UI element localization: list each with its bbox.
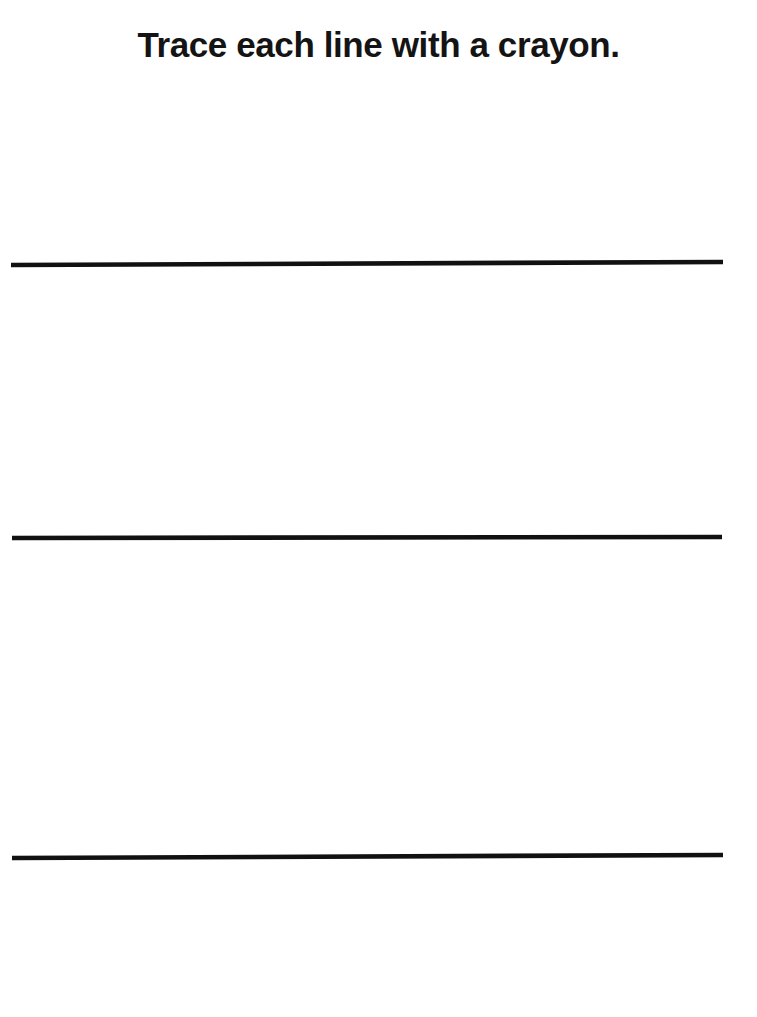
trace-line-stroke-1 <box>11 262 723 265</box>
trace-line-3 <box>0 838 757 878</box>
trace-line-1 <box>0 244 757 284</box>
worksheet-page: Trace each line with a crayon. <box>0 0 757 1017</box>
trace-lines-group <box>0 0 757 1017</box>
trace-line-2 <box>0 518 757 558</box>
trace-line-stroke-3 <box>12 855 723 858</box>
trace-line-row-1 <box>0 244 757 284</box>
trace-line-row-2 <box>0 518 757 558</box>
trace-line-stroke-2 <box>12 537 722 538</box>
trace-line-row-3 <box>0 838 757 878</box>
